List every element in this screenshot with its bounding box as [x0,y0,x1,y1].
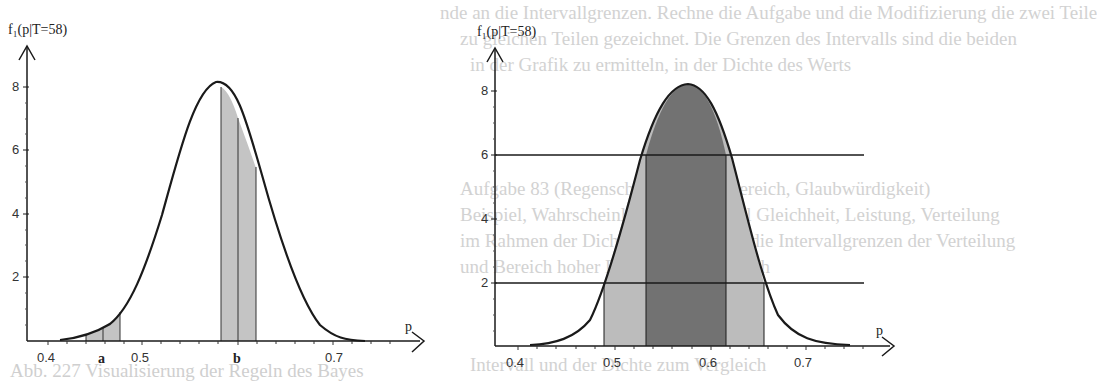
right-y-tick-2: 2 [481,275,488,290]
right-x-tick-0.4: 0.4 [506,355,524,370]
left-y-tick-8: 8 [12,79,19,94]
left-y-tick-6: 6 [12,142,19,157]
inner-region-dark [646,84,726,346]
density-curve [60,82,365,341]
right-x-tick-0.7: 0.7 [794,355,812,370]
right-chart [487,48,894,356]
right-y-tick-4: 4 [481,211,488,226]
left-y-tick-4: 4 [12,206,19,221]
left-x-tick-0.4: 0.4 [37,350,55,365]
right-x-tick-0.6: 0.6 [699,355,717,370]
left-chart [19,46,424,352]
left-y-axis-label: f₁(p|T=58) [8,22,67,38]
right-y-axis-label: f₁(p|T=58) [477,24,536,40]
interval-mark-b: b [233,351,241,367]
left-x-tick-0.5: 0.5 [131,350,149,365]
right-x-tick-0.5: 0.5 [603,355,621,370]
interval-mark-a: a [98,351,105,367]
left-x-axis-label: p [405,319,412,335]
left-y-tick-2: 2 [12,269,19,284]
left-x-tick-0.7: 0.7 [325,350,343,365]
right-y-tick-6: 6 [481,147,488,162]
right-x-axis-label: p [876,323,883,339]
right-y-tick-8: 8 [481,83,488,98]
